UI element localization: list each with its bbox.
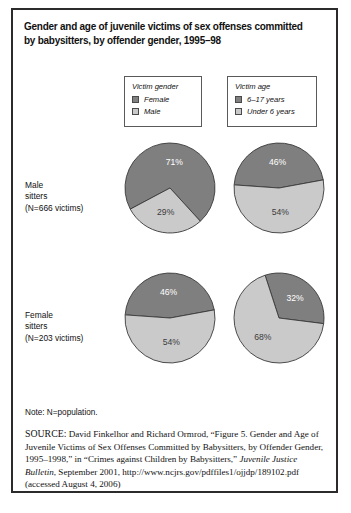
pie-slice — [125, 310, 215, 363]
pie-slice-value-label: 54% — [272, 207, 290, 217]
legend-victim-gender: Victim gender Female Male — [124, 76, 202, 127]
pie-slice-value-label: 32% — [286, 293, 304, 303]
legend-item-under-6-years: Under 6 years — [235, 107, 309, 116]
swatch-dark-icon — [235, 96, 242, 103]
pie-chart-male-sitters-victim-gender: 71%29% — [123, 141, 217, 235]
legend-victim-age-title: Victim age — [235, 82, 309, 91]
row-label-female-line2: sitters — [25, 321, 117, 332]
legend-item-male: Male — [132, 107, 194, 116]
pie-slice-value-label: 68% — [254, 332, 272, 342]
pie-slice-value-label: 46% — [269, 157, 287, 167]
row-label-female-line1: Female — [25, 310, 117, 321]
legend-item-female-label: Female — [144, 95, 169, 104]
legend-victim-gender-title: Victim gender — [132, 82, 194, 91]
source-tail: , September 2001, http://www.ncjrs.gov/p… — [25, 467, 299, 490]
source-keyword: SOURCE: — [25, 428, 66, 439]
pie-chart-male-sitters-victim-age: 46%54% — [232, 141, 326, 235]
pie-slice-value-label: 29% — [157, 207, 175, 217]
row-label-male-sitters: Male sitters (N=666 victims) — [25, 180, 117, 214]
pie-slice-value-label: 54% — [163, 337, 181, 347]
legend-victim-age: Victim age 6–17 years Under 6 years — [227, 76, 317, 127]
row-label-male-line2: sitters — [25, 191, 117, 202]
legend-item-under-6-years-label: Under 6 years — [247, 107, 295, 116]
row-label-male-line1: Male — [25, 180, 117, 191]
row-label-female-line3: (N=203 victims) — [25, 333, 117, 344]
pie-chart-female-sitters-victim-age: 32%68% — [232, 271, 326, 365]
pie-slice-value-label: 46% — [160, 287, 178, 297]
legend-item-6-17-years-label: 6–17 years — [247, 95, 285, 104]
legend-item-female: Female — [132, 95, 194, 104]
swatch-dark-icon — [132, 96, 139, 103]
figure-note: Note: N=population. — [25, 408, 325, 417]
legend-item-6-17-years: 6–17 years — [235, 95, 309, 104]
pie-slice-value-label: 71% — [166, 157, 184, 167]
pie-chart-female-sitters-victim-gender: 46%54% — [123, 271, 217, 365]
figure-title: Gender and age of juvenile victims of se… — [24, 19, 311, 47]
figure-container: Gender and age of juvenile victims of se… — [11, 8, 338, 493]
swatch-light-icon — [235, 108, 242, 115]
row-label-male-line3: (N=666 victims) — [25, 203, 117, 214]
row-label-female-sitters: Female sitters (N=203 victims) — [25, 310, 117, 344]
legend-item-male-label: Male — [144, 107, 160, 116]
swatch-light-icon — [132, 108, 139, 115]
pie-slice — [234, 180, 324, 233]
figure-source: SOURCE: David Finkelhor and Richard Ormr… — [25, 428, 328, 491]
